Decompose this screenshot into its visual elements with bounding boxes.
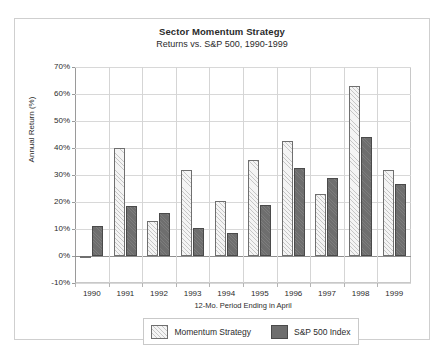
legend-label: S&P 500 Index <box>294 327 351 337</box>
legend-entry-momentum-strategy[interactable]: Momentum Strategy <box>151 325 251 339</box>
bar-sp500-index-1992 <box>159 213 170 256</box>
y-axis-tick-label: -10% <box>51 279 70 287</box>
chart-title: Sector Momentum Strategy <box>15 25 429 38</box>
x-axis-tick-mark <box>277 283 278 287</box>
x-axis-tick-label: 1993 <box>176 289 210 298</box>
y-axis-tick-label: 30% <box>54 171 70 179</box>
x-axis-tick-mark <box>176 283 177 287</box>
legend-entry-sp500-index[interactable]: S&P 500 Index <box>271 325 351 339</box>
bar-group <box>142 67 176 283</box>
x-axis-tick-mark <box>209 283 210 287</box>
bar-sp500-index-1996 <box>294 168 305 256</box>
x-axis-tick-mark <box>310 283 311 287</box>
bar-sp500-index-1993 <box>193 228 204 256</box>
legend-label: Momentum Strategy <box>174 327 251 337</box>
y-axis-tick-label: 10% <box>54 225 70 233</box>
bar-group <box>243 67 277 283</box>
chart-frame: Sector Momentum Strategy Returns vs. S&P… <box>14 18 430 340</box>
x-axis-tick-mark <box>109 283 110 287</box>
legend-swatch-icon <box>271 325 288 339</box>
x-axis-tick-label: 1997 <box>310 289 344 298</box>
bar-momentum-strategy-1998 <box>349 86 360 256</box>
bar-sp500-index-1990 <box>92 226 103 256</box>
bar-group <box>209 67 243 283</box>
bar-group <box>344 67 378 283</box>
x-axis-tick-mark <box>344 283 345 287</box>
x-axis-tick-mark <box>377 283 378 287</box>
y-axis-tick-label: 40% <box>54 144 70 152</box>
y-axis-tick-label: 70% <box>54 63 70 71</box>
bar-sp500-index-1994 <box>227 233 238 256</box>
bar-momentum-strategy-1996 <box>282 141 293 256</box>
bar-sp500-index-1995 <box>260 205 271 256</box>
chart-subtitle: Returns vs. S&P 500, 1990-1999 <box>15 38 429 51</box>
x-axis-tick-mark <box>243 283 244 287</box>
y-axis-tick-label: 50% <box>54 117 70 125</box>
bar-group <box>310 67 344 283</box>
bar-sp500-index-1997 <box>327 178 338 256</box>
x-axis-tick-label: 1999 <box>377 289 411 298</box>
bar-sp500-index-1998 <box>361 137 372 256</box>
x-axis-tick-mark <box>75 283 76 287</box>
plot-area-wrapper: 70%60%50%40%30%20%10%0%-10% 199019911992… <box>75 67 411 283</box>
x-axis-tick-label: 1991 <box>109 289 143 298</box>
x-axis-tick-label: 1990 <box>75 289 109 298</box>
bar-momentum-strategy-1992 <box>147 221 158 256</box>
bar-momentum-strategy-1995 <box>248 160 259 256</box>
bar-momentum-strategy-1991 <box>114 148 125 256</box>
bar-sp500-index-1991 <box>126 206 137 256</box>
x-axis-tick-label: 1995 <box>243 289 277 298</box>
y-axis-tick-label: 20% <box>54 198 70 206</box>
bar-momentum-strategy-1994 <box>215 201 226 256</box>
x-axis-tick-label: 1998 <box>344 289 378 298</box>
bar-group <box>176 67 210 283</box>
bar-momentum-strategy-1999 <box>383 170 394 256</box>
x-axis-tick-mark <box>142 283 143 287</box>
y-axis-tick-label: 0% <box>58 252 70 260</box>
y-axis-tick-label: 60% <box>54 90 70 98</box>
x-axis-title: 12-Mo. Period Ending in April <box>75 301 411 310</box>
bar-momentum-strategy-1990 <box>80 256 91 258</box>
bar-momentum-strategy-1993 <box>181 170 192 256</box>
legend-swatch-icon <box>151 325 168 339</box>
bar-group <box>377 67 411 283</box>
bar-group <box>75 67 109 283</box>
x-axis-tick-label: 1994 <box>209 289 243 298</box>
bar-momentum-strategy-1997 <box>315 194 326 256</box>
title-block: Sector Momentum Strategy Returns vs. S&P… <box>15 25 429 51</box>
y-axis-title: Annual Return (%) <box>27 50 36 210</box>
bar-sp500-index-1999 <box>395 184 406 256</box>
bar-group <box>109 67 143 283</box>
chart-legend: Momentum StrategyS&P 500 Index <box>143 318 359 345</box>
bar-group <box>277 67 311 283</box>
x-axis-tick-label: 1996 <box>277 289 311 298</box>
x-axis-tick-label: 1992 <box>142 289 176 298</box>
